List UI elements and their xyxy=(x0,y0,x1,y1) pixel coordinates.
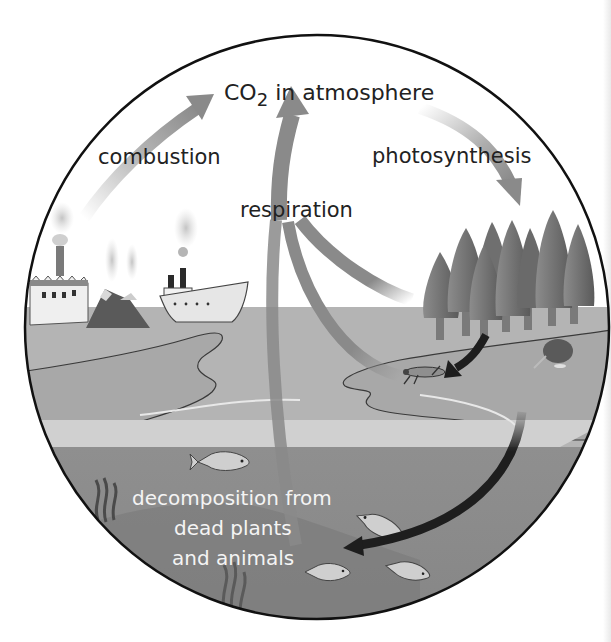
photosynthesis-label: photosynthesis xyxy=(372,144,531,168)
decomposition-label-line2: dead plants xyxy=(174,516,292,540)
decomposition-label-line3: and animals xyxy=(172,546,294,570)
respiration-label: respiration xyxy=(240,198,353,222)
combustion-label: combustion xyxy=(98,145,221,169)
carbon-cycle-diagram: CO2 in atmosphere combustion photosynthe… xyxy=(0,0,611,642)
decomposition-label-line1: decomposition from xyxy=(132,486,332,510)
